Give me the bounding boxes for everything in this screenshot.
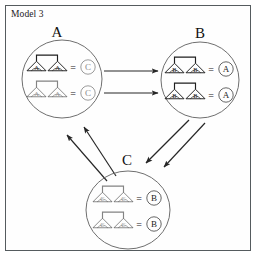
tree-bracket bbox=[37, 81, 58, 87]
tree-node-letter: C bbox=[100, 221, 104, 228]
result-letter: B bbox=[151, 219, 157, 229]
equals-sign: = bbox=[208, 90, 214, 101]
result-letter: A bbox=[223, 90, 230, 100]
cluster-B[interactable]: BB=ABB=A bbox=[161, 42, 239, 118]
cluster-A[interactable]: AA=CAA=C bbox=[22, 40, 102, 118]
rule-row[interactable]: AA=C bbox=[27, 81, 95, 100]
rule-row[interactable]: BB=A bbox=[165, 57, 233, 76]
equals-sign: = bbox=[208, 64, 214, 75]
cluster-ellipse-B[interactable] bbox=[161, 42, 239, 118]
tree-bracket bbox=[175, 83, 196, 89]
tree-bracket bbox=[103, 212, 124, 218]
tree-node-letter: A bbox=[34, 64, 39, 71]
result-letter: B bbox=[151, 193, 157, 203]
arrow-c-to-a-inner bbox=[84, 127, 116, 176]
tree-node-letter: B bbox=[172, 92, 176, 99]
equals-sign: = bbox=[136, 219, 142, 230]
rule-row[interactable]: CC=B bbox=[93, 212, 161, 231]
result-letter: A bbox=[223, 64, 230, 74]
tree-node-letter: C bbox=[100, 195, 104, 202]
equals-sign: = bbox=[70, 88, 76, 99]
result-letter: C bbox=[85, 62, 91, 72]
figure-canvas: Model 3 AA=CAA=CBB=ABB=ACC=BCC=B ABC bbox=[0, 0, 257, 258]
tree-node-letter: A bbox=[55, 64, 60, 71]
tree-node-letter: B bbox=[172, 66, 176, 73]
arrow-b-to-c-inner bbox=[164, 123, 205, 167]
equals-sign: = bbox=[136, 193, 142, 204]
cluster-ellipse-C[interactable] bbox=[86, 171, 170, 249]
result-letter: C bbox=[85, 88, 91, 98]
arrow-b-to-c-outer bbox=[146, 120, 189, 163]
tree-node-letter: C bbox=[121, 195, 125, 202]
rule-row[interactable]: CC=B bbox=[93, 186, 161, 205]
model-diagram: AA=CAA=CBB=ABB=ACC=BCC=B bbox=[0, 0, 257, 258]
cluster-C[interactable]: CC=BCC=B bbox=[86, 171, 170, 249]
cluster-label-C: C bbox=[117, 152, 137, 169]
arrow-c-to-a-outer bbox=[67, 135, 107, 181]
cluster-label-B: B bbox=[190, 25, 210, 42]
tree-node-letter: B bbox=[193, 66, 197, 73]
tree-node-letter: B bbox=[193, 92, 197, 99]
cluster-ellipse-A[interactable] bbox=[22, 40, 102, 118]
cluster-label-A: A bbox=[47, 24, 67, 41]
tree-bracket bbox=[37, 55, 58, 61]
equals-sign: = bbox=[70, 62, 76, 73]
tree-bracket bbox=[103, 186, 124, 192]
tree-bracket bbox=[175, 57, 196, 63]
rule-row[interactable]: BB=A bbox=[165, 83, 233, 102]
tree-node-letter: A bbox=[34, 90, 39, 97]
tree-node-letter: C bbox=[121, 221, 125, 228]
tree-node-letter: A bbox=[55, 90, 60, 97]
rule-row[interactable]: AA=C bbox=[27, 55, 95, 74]
